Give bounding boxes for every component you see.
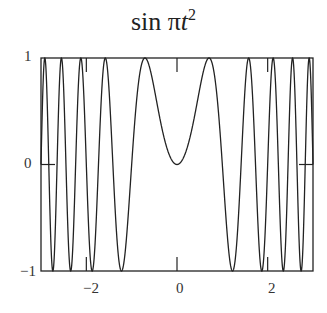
x-tick-label-0: 0 <box>176 280 184 297</box>
y-tick-label-0: 0 <box>24 155 32 172</box>
x-tick-label-2: 2 <box>268 280 276 297</box>
plot-area <box>0 0 327 313</box>
y-tick-label-1: 1 <box>24 48 32 65</box>
sine-curve <box>41 58 313 271</box>
x-tick-label-neg2: −2 <box>83 280 99 297</box>
y-tick-label-neg1: −1 <box>20 263 36 280</box>
